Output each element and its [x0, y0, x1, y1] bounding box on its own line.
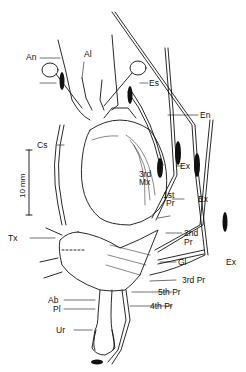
label-3rd-pr: 3rd Pr [182, 276, 205, 285]
label-cs: Cs [37, 141, 47, 150]
scale-bar-label: 10 mm [18, 174, 27, 198]
label-3rd-mx-line2: Mx [139, 178, 150, 187]
label-es: Es [149, 79, 159, 88]
label-ex-1: Ex [180, 162, 190, 171]
label-ex-2: Ex [198, 195, 208, 204]
label-pl: Pl [53, 305, 61, 314]
label-4th-pr: 4th Pr [150, 302, 173, 311]
label-an: An [26, 53, 36, 62]
thorax [59, 230, 158, 291]
label-tx: Tx [8, 234, 17, 243]
label-5th-pr: 5th Pr [158, 288, 181, 297]
label-ex-3: Ex [226, 258, 236, 267]
larva-diagram [0, 0, 246, 372]
label-en: En [200, 111, 210, 120]
label-al: Al [84, 50, 92, 59]
label-2nd-pr-line2: Pr [184, 238, 193, 247]
abdomen [92, 290, 115, 355]
label-gl: Gl [178, 258, 187, 267]
label-ur: Ur [56, 326, 65, 335]
label-1st-pr-line2: Pr [166, 199, 175, 208]
